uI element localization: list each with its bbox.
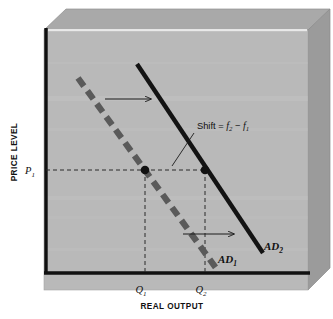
y-tick-p1: P1 (24, 165, 35, 179)
shift-annotation-label: Shift = f2 − f1 (197, 120, 249, 132)
equilibrium-point-1 (141, 166, 150, 175)
x-tick-q2-subscript: 2 (203, 290, 207, 298)
block-right-face (308, 9, 330, 290)
equilibrium-point-2 (201, 166, 210, 175)
x-tick-q1-subscript: 1 (143, 290, 147, 298)
figure-root: Shift = f2 − f1 AD1 AD2 P1 Q1 Q2 (0, 0, 333, 319)
ad-shift-chart: Shift = f2 − f1 AD1 AD2 P1 Q1 Q2 (0, 0, 333, 319)
ad2-label-subscript: 2 (278, 246, 283, 255)
ad1-label-subscript: 1 (233, 259, 237, 268)
shift-annotation-prefix: Shift = (197, 121, 226, 131)
ad2-label-text: AD (263, 240, 279, 252)
chart-3d-block (44, 9, 330, 290)
shift-annotation-operator: − (232, 121, 243, 131)
shift-annotation-term2-sub: 1 (246, 125, 249, 132)
block-top-face (44, 9, 330, 30)
panel-top-highlight (48, 29, 307, 31)
ad1-label-text: AD (217, 253, 233, 265)
y-tick-p1-subscript: 1 (31, 171, 35, 179)
y-axis-title: PRICE LEVEL (10, 123, 19, 182)
x-axis-title: REAL OUTPUT (140, 302, 203, 311)
